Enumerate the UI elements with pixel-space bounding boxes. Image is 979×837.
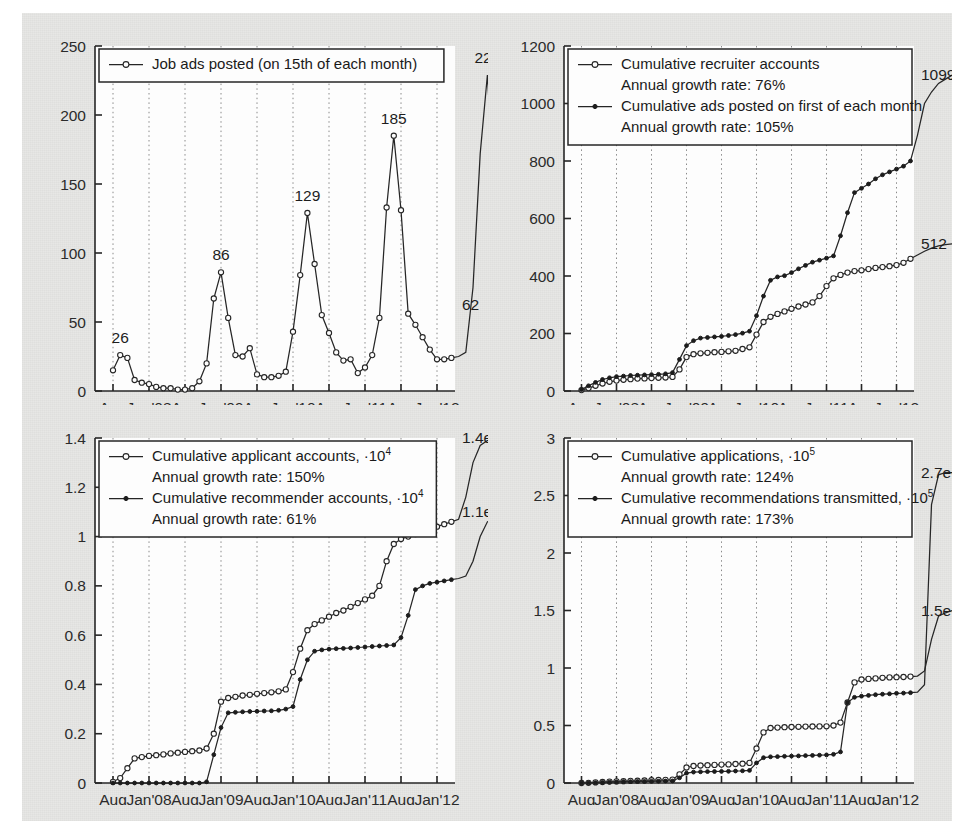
legend-label: Cumulative applications, ·105 [621,446,815,464]
y-tick-label: 0 [77,775,86,792]
data-point [110,368,115,373]
data-point [684,355,689,360]
data-point [712,762,717,767]
data-point [240,354,245,359]
data-point [370,593,375,598]
data-point [385,644,389,648]
data-point [776,755,780,759]
data-point [740,761,745,766]
data-point [204,746,209,751]
data-point [219,726,223,730]
data-point [734,769,738,773]
data-point [825,256,829,260]
data-point [146,753,151,758]
y-tick-label: 1.2 [64,479,86,496]
legend-growth-rate: Annual growth rate: 76% [621,76,785,93]
data-point [726,349,731,354]
data-point [727,769,731,773]
data-point [175,750,180,755]
data-point [198,781,202,785]
data-point [650,373,654,377]
data-point [428,582,432,586]
data-point [450,578,454,582]
data-point [162,781,166,785]
data-point [797,754,801,758]
data-point [205,780,209,784]
data-point [747,345,752,350]
x-tick-label: Jan'09 [664,791,709,805]
data-point [161,752,166,757]
figure-canvas: 050100150200250AugJan'08AugJan'09AugJan'… [22,13,952,821]
data-point [442,579,446,583]
data-point [391,541,396,546]
data-point [290,670,295,675]
y-tick-label: 800 [529,153,555,170]
recruiter-accounts-chart: 020040060080010001200AugJan'08AugJan'09A… [488,13,952,405]
data-point [895,691,899,695]
y-tick-label: 1 [77,528,86,545]
data-point [698,351,703,356]
data-point [783,754,787,758]
y-tick-label: 0.2 [64,725,86,742]
legend-exponent: 4 [418,488,424,499]
data-point [254,691,259,696]
data-point [608,780,612,784]
data-point [726,762,731,767]
data-point [762,756,766,760]
data-point [768,314,773,319]
data-point [176,781,180,785]
data-point [139,755,144,760]
data-point [643,780,647,784]
data-point [846,701,850,705]
data-point [692,339,696,343]
x-tick-label: Aug [638,791,666,805]
data-point [449,519,454,524]
data-point [853,191,857,195]
legend-marker-open-circle-icon [123,62,129,68]
data-point [348,604,353,609]
data-point [277,708,281,712]
data-point [218,699,223,704]
data-point [733,348,738,353]
data-point [775,725,780,730]
data-point [211,296,216,301]
data-point [247,346,252,351]
x-tick-label: Aug [708,791,736,805]
data-point [754,332,759,337]
data-point [909,691,913,695]
data-point [204,361,209,366]
y-tick-label: 1 [546,660,555,677]
data-point [580,781,584,785]
data-point [670,374,675,379]
legend-growth-rate: Annual growth rate: 105% [621,118,794,135]
data-point [880,675,885,680]
peak-label: 129 [294,187,320,204]
data-point [705,350,710,355]
data-point [685,344,689,348]
x-tick-label: Aug [315,791,343,805]
data-point [175,387,180,392]
x-tick-label: Aug [387,791,415,805]
data-point [684,765,689,770]
data-point [866,267,871,272]
x-tick-label: Jan'08 [126,791,171,805]
data-point [427,347,432,352]
data-point [312,261,317,266]
data-point [363,645,367,649]
data-point [233,353,238,358]
data-point [601,781,605,785]
data-point [657,779,661,783]
data-point [154,384,159,389]
data-point [377,315,382,320]
data-point [118,781,122,785]
data-point [720,335,724,339]
chart-panel-recruiters: 020040060080010001200AugJan'08AugJan'09A… [488,13,952,405]
applicant-accounts-chart: 00.20.40.60.811.21.4AugJan'08AugJan'09Au… [22,405,488,805]
x-tick-label: Jan'11 [804,791,848,805]
data-point [168,751,173,756]
data-point [838,720,843,725]
legend-marker-filled-circle-icon [593,104,597,108]
data-point [790,754,794,758]
data-point [298,646,303,651]
data-point [852,680,857,685]
